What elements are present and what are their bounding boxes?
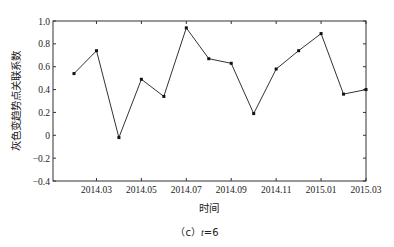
x-tick-label: 2014.05: [126, 185, 157, 195]
x-tick-label: 2014.11: [261, 185, 292, 195]
x-axis-label: 时间: [199, 202, 219, 214]
y-tick-label: −0.4: [33, 177, 50, 187]
data-series: [73, 26, 368, 139]
x-tick-label: 2014.03: [81, 185, 112, 195]
y-tick-label: 0.4: [38, 85, 50, 95]
caption-value: =6: [204, 227, 219, 238]
x-axis: 2014.032014.052014.072014.092014.112015.…: [81, 21, 382, 195]
x-tick-label: 2014.07: [171, 185, 202, 195]
caption-prefix: （c）: [175, 227, 201, 238]
y-tick-label: 0.6: [38, 62, 50, 72]
y-tick-label: 1.0: [38, 17, 50, 27]
data-point-marker: [117, 136, 120, 139]
data-point-marker: [140, 78, 143, 81]
data-point-marker: [342, 93, 345, 96]
y-axis-label: 灰色变趋势点关联系数: [10, 50, 22, 151]
x-tick-label: 2015.03: [351, 185, 382, 195]
data-point-marker: [185, 26, 188, 29]
plot-frame: [53, 21, 366, 181]
data-point-marker: [230, 62, 233, 65]
x-tick-label: 2014.09: [216, 185, 247, 195]
y-axis: 1.00.80.60.40.20−0.2−0.4: [33, 17, 366, 187]
line-chart: 1.00.80.60.40.20−0.2−0.4 2014.032014.052…: [0, 0, 394, 222]
data-point-marker: [365, 88, 368, 91]
y-tick-label: 0.2: [38, 108, 50, 118]
data-point-marker: [162, 95, 165, 98]
plot-border: [53, 21, 366, 181]
y-tick-label: 0.8: [38, 39, 50, 49]
data-point-marker: [297, 49, 300, 52]
y-tick-label: 0: [45, 131, 50, 141]
data-point-marker: [73, 72, 76, 75]
data-point-marker: [252, 112, 255, 115]
figure-caption: （c）t=6: [0, 224, 394, 239]
x-tick-label: 2015.01: [306, 185, 337, 195]
data-point-marker: [320, 32, 323, 35]
series-line: [74, 28, 366, 138]
data-point-marker: [207, 57, 210, 60]
data-point-marker: [95, 49, 98, 52]
y-tick-label: −0.2: [33, 154, 50, 164]
data-point-marker: [275, 68, 278, 71]
